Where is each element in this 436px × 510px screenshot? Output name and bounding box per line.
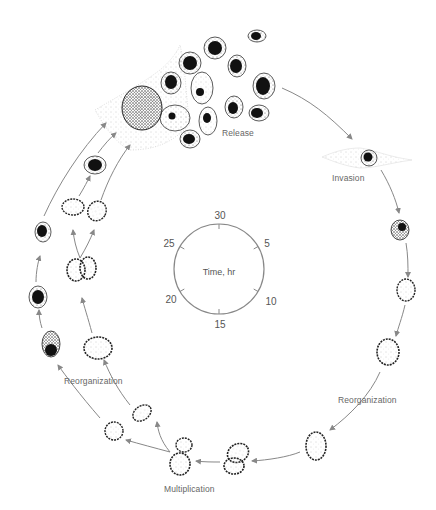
- clock-tick-20: 20: [165, 294, 176, 305]
- label-invasion: Invasion: [332, 173, 364, 183]
- invasion-cell: [322, 148, 412, 168]
- label-reorganization-right: Reorganization: [338, 395, 397, 405]
- clock-tick-10: 10: [265, 296, 276, 307]
- merozoite-left-1: [84, 156, 106, 174]
- merozoite-left-2: [35, 222, 51, 242]
- schizont-budding: [170, 438, 192, 475]
- clock-tick-5: 5: [264, 238, 270, 249]
- trophozoite-cell-1: [397, 279, 415, 301]
- clock-tick-15: 15: [214, 319, 225, 330]
- label-reorganization-left: Reorganization: [64, 376, 123, 386]
- label-release: Release: [222, 128, 254, 138]
- ring-stage-cell: [391, 220, 409, 240]
- released-cells: [160, 30, 275, 148]
- arrow-release-to-invasion: [282, 88, 352, 139]
- clock-center-label: Time, hr: [203, 267, 236, 277]
- pair-cell-b: [84, 198, 110, 224]
- daughter-cell-b: [105, 422, 123, 440]
- life-cycle-diagram: 30 5 10 15 20 25 Time, hr Release Invasi…: [0, 0, 436, 510]
- clock-tick-30: 30: [214, 210, 225, 221]
- double-cell-left: [67, 257, 96, 281]
- host-cell-release: [95, 45, 190, 150]
- daughter-cell-a: [130, 402, 154, 425]
- schizont-cell-1: [306, 432, 326, 460]
- merozoite-left-dark: [29, 286, 47, 308]
- reorg-left-cell-outer: [42, 331, 60, 357]
- diagram-canvas: [0, 0, 436, 510]
- label-multiplication: Multiplication: [164, 484, 215, 494]
- clock-tick-25: 25: [163, 238, 174, 249]
- pair-cell-a: [62, 199, 84, 215]
- trophozoite-cell-2: [377, 339, 399, 365]
- reorg-left-cell-inner: [84, 337, 112, 359]
- schizont-cell-2: [224, 440, 252, 474]
